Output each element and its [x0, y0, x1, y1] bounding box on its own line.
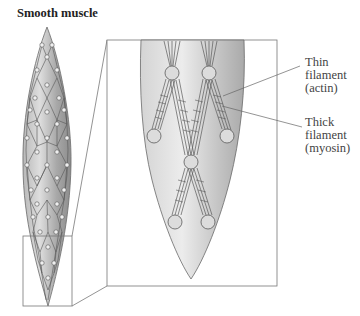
zoom-connectors [72, 40, 107, 306]
diagram-canvas [0, 0, 360, 316]
smooth-muscle-figure: Smooth muscle [0, 0, 360, 316]
thick-label-line3: (myosin) [305, 142, 350, 155]
muscle-cell [23, 27, 71, 306]
thin-label-line3: (actin) [305, 82, 347, 95]
thin-filament-label: Thin filament (actin) [305, 56, 347, 95]
zoom-panel [107, 40, 277, 286]
thick-filament-label: Thick filament (myosin) [305, 116, 350, 155]
